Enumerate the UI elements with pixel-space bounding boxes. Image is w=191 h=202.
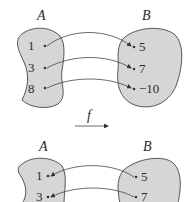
- set-a-label: A: [36, 8, 46, 23]
- domain-element-3: 3: [36, 189, 43, 202]
- codomain-element-7: 7: [141, 189, 148, 202]
- codomain-element-5: 5: [141, 169, 148, 184]
- domain-element-8: 8: [28, 81, 35, 96]
- set-b-label: B: [142, 8, 151, 23]
- set-a-label: A: [38, 139, 48, 154]
- domain-element-1: 1: [36, 168, 43, 183]
- domain-element-3: 3: [28, 60, 35, 75]
- domain-element-1: 1: [28, 38, 35, 53]
- codomain-element-7: 7: [139, 61, 146, 76]
- set-b-blob: [118, 158, 180, 202]
- codomain-element-neg10: −10: [139, 81, 159, 96]
- set-a-blob: [18, 28, 64, 107]
- bottom-diagram: A B 1 3 5 7: [18, 139, 180, 202]
- function-arrow-group: f: [75, 108, 108, 126]
- top-diagram: A B 1 3 8 5 7 −10: [18, 8, 182, 107]
- codomain-element-5: 5: [139, 39, 146, 54]
- set-b-label: B: [143, 139, 152, 154]
- function-label: f: [87, 108, 93, 123]
- function-mapping-diagram: A B 1 3 8 5 7 −10 f A B 1 3: [0, 0, 191, 202]
